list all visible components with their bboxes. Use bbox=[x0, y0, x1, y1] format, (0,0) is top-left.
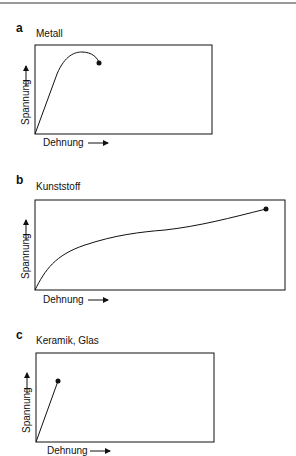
panel-c-frame bbox=[36, 353, 214, 442]
diagram-canvas: Spannung Dehnung Spannung Dehnung Spannu… bbox=[0, 0, 296, 456]
panel-b-chart: Spannung Dehnung bbox=[20, 200, 285, 305]
panel-c-curve bbox=[36, 381, 58, 442]
panel-a-frame bbox=[35, 45, 212, 134]
panel-b-fracture-point bbox=[264, 207, 269, 212]
panel-c-ylabel: Spannung bbox=[21, 387, 32, 433]
panel-b-ylabel: Spannung bbox=[20, 233, 31, 279]
panel-b-xlabel: Dehnung bbox=[43, 294, 84, 305]
panel-a-xlabel: Dehnung bbox=[43, 137, 84, 148]
panel-a-curve bbox=[35, 52, 99, 134]
panel-a-fracture-point bbox=[97, 61, 102, 66]
panel-c-fracture-point bbox=[56, 379, 61, 384]
panel-a-chart: Spannung Dehnung bbox=[20, 45, 212, 148]
panel-a-ylabel: Spannung bbox=[20, 79, 31, 125]
panel-c-xlabel: Dehnung bbox=[47, 445, 88, 456]
panel-c-chart: Spannung Dehnung bbox=[21, 353, 214, 456]
panel-b-curve bbox=[35, 209, 266, 290]
